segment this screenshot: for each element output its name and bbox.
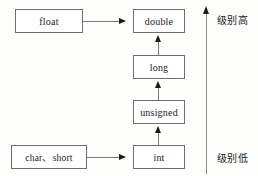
node-unsigned-label: unsigned [140, 107, 178, 118]
arrowhead-charshort-to-int-icon [119, 154, 126, 160]
node-long-label: long [150, 62, 169, 73]
rank-axis-label-high: 级别高 [217, 12, 248, 27]
arrowhead-unsigned-to-long-icon [155, 81, 161, 88]
node-char-short: char、short [11, 145, 87, 169]
node-float: float [15, 9, 83, 33]
node-char-short-label: char、short [25, 150, 72, 164]
arrowhead-long-to-double-icon [155, 35, 161, 42]
node-float-label: float [39, 16, 58, 27]
node-double: double [133, 9, 185, 33]
node-double-label: double [145, 16, 173, 27]
node-int-label: int [153, 152, 164, 163]
node-unsigned: unsigned [133, 100, 185, 124]
node-long: long [133, 55, 185, 79]
rank-axis-arrow-icon [203, 6, 209, 14]
diagram-canvas: float double long unsigned int char、shor… [0, 0, 258, 176]
arrowhead-int-to-unsigned-icon [155, 126, 161, 133]
arrowhead-float-to-double-icon [119, 18, 126, 24]
node-int: int [133, 145, 185, 169]
rank-axis-label-low: 级别低 [217, 150, 248, 165]
rank-axis-line [206, 13, 207, 174]
